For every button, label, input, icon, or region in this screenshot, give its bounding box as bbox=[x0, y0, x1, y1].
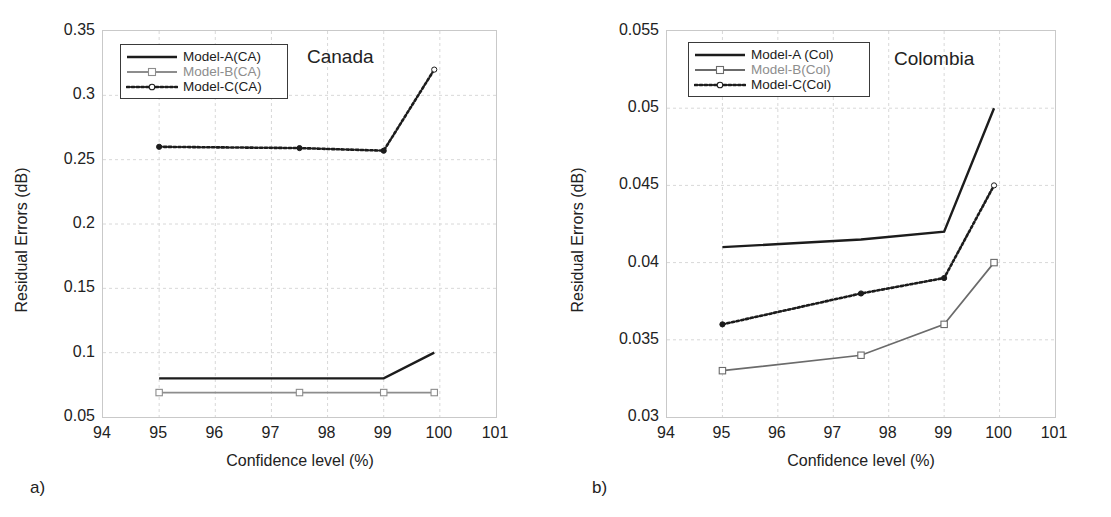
x-axis-tick-label: 97 bbox=[823, 424, 841, 442]
legend-label: Model-A(CA) bbox=[183, 49, 261, 64]
legend-swatch-icon bbox=[694, 64, 746, 76]
y-axis-tick-label: 0.055 bbox=[619, 21, 659, 39]
x-axis-tick-label: 101 bbox=[1041, 424, 1068, 442]
subplot-canada: Residual Errors (dB) 0.050.10.150.20.250… bbox=[0, 0, 555, 517]
y-axis-tick-label: 0.35 bbox=[64, 21, 95, 39]
data-point-marker bbox=[156, 389, 162, 395]
legend-item[interactable]: Model-C(Col) bbox=[694, 77, 862, 92]
legend-label: Model-B(Col) bbox=[751, 62, 831, 77]
series-b bbox=[156, 389, 438, 395]
y-axis-label-b: Residual Errors (dB) bbox=[564, 95, 592, 385]
y-axis-label-a: Residual Errors (dB) bbox=[8, 95, 36, 385]
legend-label: Model-C(Col) bbox=[751, 77, 831, 92]
data-point-marker bbox=[296, 389, 302, 395]
legend-label: Model-C(CA) bbox=[183, 79, 262, 94]
plot-area-colombia: 0.030.0350.040.0450.050.0559495969798991… bbox=[666, 30, 1056, 418]
legend-item[interactable]: Model-B(CA) bbox=[126, 64, 280, 79]
data-point-marker bbox=[719, 367, 725, 373]
data-point-marker bbox=[991, 259, 997, 265]
x-axis-label-b: Confidence level (%) bbox=[661, 452, 1061, 470]
subplot-label-a: a) bbox=[30, 478, 45, 498]
chart-legend[interactable]: Model-A (Col)Model-B(Col)Model-C(Col) bbox=[688, 42, 870, 97]
legend-item[interactable]: Model-C(CA) bbox=[126, 79, 280, 94]
legend-swatch-icon bbox=[126, 81, 178, 93]
y-axis-tick-label: 0.15 bbox=[64, 278, 95, 296]
y-axis-tick-label: 0.2 bbox=[73, 214, 95, 232]
x-axis-tick-label: 99 bbox=[934, 424, 952, 442]
data-point-marker bbox=[720, 322, 725, 327]
legend-item[interactable]: Model-B(Col) bbox=[694, 62, 862, 77]
data-point-marker bbox=[942, 275, 947, 280]
figure-root: Residual Errors (dB) 0.050.10.150.20.250… bbox=[0, 0, 1111, 517]
legend-swatch-icon bbox=[694, 79, 746, 91]
x-axis-tick-label: 96 bbox=[205, 424, 223, 442]
x-axis-label-a: Confidence level (%) bbox=[100, 452, 500, 470]
data-point-marker bbox=[432, 67, 437, 72]
x-axis-tick-label: 94 bbox=[657, 424, 675, 442]
plot-area-canada: 0.050.10.150.20.250.30.35949596979899100… bbox=[102, 30, 497, 418]
x-axis-tick-label: 101 bbox=[482, 424, 509, 442]
data-point-marker bbox=[431, 389, 437, 395]
subplot-colombia: Residual Errors (dB) 0.030.0350.040.0450… bbox=[556, 0, 1111, 517]
data-point-marker bbox=[381, 148, 386, 153]
y-axis-tick-label: 0.05 bbox=[64, 407, 95, 425]
y-axis-tick-label: 0.05 bbox=[628, 98, 659, 116]
y-axis-tick-label: 0.1 bbox=[73, 343, 95, 361]
data-point-marker bbox=[157, 144, 162, 149]
legend-item[interactable]: Model-A (Col) bbox=[694, 47, 862, 62]
data-point-marker bbox=[858, 291, 863, 296]
x-axis-tick-label: 100 bbox=[425, 424, 452, 442]
x-axis-tick-label: 99 bbox=[374, 424, 392, 442]
series-line bbox=[159, 353, 434, 379]
data-point-marker bbox=[297, 145, 302, 150]
x-axis-tick-label: 96 bbox=[768, 424, 786, 442]
x-axis-tick-label: 95 bbox=[149, 424, 167, 442]
x-axis-tick-label: 95 bbox=[713, 424, 731, 442]
y-axis-tick-label: 0.045 bbox=[619, 175, 659, 193]
legend-item[interactable]: Model-A(CA) bbox=[126, 49, 280, 64]
y-axis-tick-label: 0.035 bbox=[619, 330, 659, 348]
legend-label: Model-A (Col) bbox=[751, 47, 834, 62]
x-axis-tick-label: 100 bbox=[985, 424, 1012, 442]
data-point-marker bbox=[858, 352, 864, 358]
series-a bbox=[159, 353, 434, 379]
series-line bbox=[722, 108, 994, 247]
x-axis-tick-label: 98 bbox=[318, 424, 336, 442]
y-axis-tick-label: 0.25 bbox=[64, 150, 95, 168]
legend-label: Model-B(CA) bbox=[183, 64, 261, 79]
legend-swatch-icon bbox=[126, 51, 178, 63]
x-axis-tick-label: 97 bbox=[262, 424, 280, 442]
y-axis-tick-label: 0.04 bbox=[628, 253, 659, 271]
subplot-label-b: b) bbox=[592, 478, 607, 498]
data-point-marker bbox=[381, 389, 387, 395]
chart-title: Canada bbox=[307, 46, 374, 68]
data-point-marker bbox=[991, 183, 996, 188]
data-point-marker bbox=[941, 321, 947, 327]
x-axis-tick-label: 94 bbox=[93, 424, 111, 442]
y-axis-tick-label: 0.03 bbox=[628, 407, 659, 425]
legend-swatch-icon bbox=[126, 66, 178, 78]
y-axis-tick-label: 0.3 bbox=[73, 85, 95, 103]
chart-title: Colombia bbox=[894, 48, 974, 70]
chart-legend[interactable]: Model-A(CA)Model-B(CA)Model-C(CA) bbox=[120, 44, 288, 99]
series-a bbox=[722, 108, 994, 247]
x-axis-tick-label: 98 bbox=[879, 424, 897, 442]
legend-swatch-icon bbox=[694, 49, 746, 61]
